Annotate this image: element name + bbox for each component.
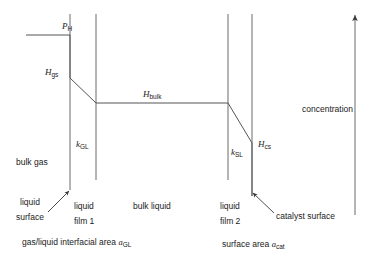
- liquid-surface-line1: liquid: [8, 198, 52, 207]
- label-liquid-film-2: liquid film 2: [220, 202, 240, 225]
- catalyst-surface-arrow: [253, 193, 274, 213]
- label-p-h: PH: [62, 22, 72, 31]
- label-h-cs: Hcs: [258, 140, 271, 149]
- liquid-film-2-line2: film 2: [220, 217, 240, 226]
- liquid-film-2-line1: liquid: [220, 202, 240, 211]
- label-bulk-liquid: bulk liquid: [133, 202, 171, 211]
- liquid-film-1-line2: film 1: [74, 217, 94, 226]
- liquid-surface-line2: surface: [8, 213, 52, 222]
- boundary-lines: [70, 14, 252, 196]
- liquid-film-1-drop: [70, 78, 96, 103]
- label-catalyst-surface-area: surface area acat: [222, 240, 285, 249]
- label-liquid-film-1: liquid film 1: [74, 202, 94, 225]
- label-h-bulk: Hbulk: [143, 90, 161, 99]
- label-k-sl: kSL: [231, 148, 243, 157]
- liquid-film-1-line1: liquid: [74, 202, 94, 211]
- two-film-concentration-diagram: concentration PH Hgs Hbulk Hcs kGL kSL b…: [0, 0, 382, 262]
- diagram-canvas: [0, 0, 382, 262]
- concentration-axis-label: concentration: [302, 105, 353, 114]
- label-k-gl: kGL: [76, 140, 89, 149]
- label-h-gs: Hgs: [45, 68, 58, 77]
- label-catalyst-surface: catalyst surface: [276, 212, 335, 221]
- cat-area-text: surface area: [222, 239, 272, 249]
- liquid-film-2-drop: [228, 103, 252, 143]
- label-gas-liquid-interfacial-area: gas/liquid interfacial area aGL: [22, 238, 131, 247]
- label-liquid-surface: liquid surface: [8, 198, 52, 221]
- gl-area-text: gas/liquid interfacial area: [22, 237, 118, 247]
- concentration-profile-path: [26, 35, 252, 196]
- label-bulk-gas: bulk gas: [16, 158, 48, 167]
